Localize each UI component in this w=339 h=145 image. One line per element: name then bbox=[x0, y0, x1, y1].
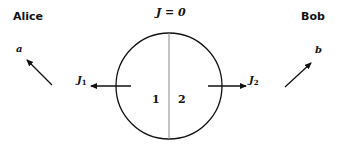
observable-a-label: a bbox=[16, 43, 22, 54]
diagram-canvas: Alice Bob J = 0 a b J1 J2 1 2 bbox=[0, 0, 339, 145]
region-1-label: 1 bbox=[152, 93, 160, 106]
region-2-label: 2 bbox=[178, 93, 186, 106]
observable-b-arrow bbox=[285, 63, 311, 87]
alice-label: Alice bbox=[13, 10, 43, 23]
bob-label: Bob bbox=[301, 10, 325, 23]
observable-b-label: b bbox=[315, 44, 322, 55]
observable-a-arrow bbox=[27, 60, 52, 85]
diagram-graphics bbox=[0, 0, 339, 145]
constraint-label: J = 0 bbox=[156, 6, 186, 19]
current-1-label: J1 bbox=[77, 74, 87, 87]
current-2-label: J2 bbox=[249, 74, 259, 87]
